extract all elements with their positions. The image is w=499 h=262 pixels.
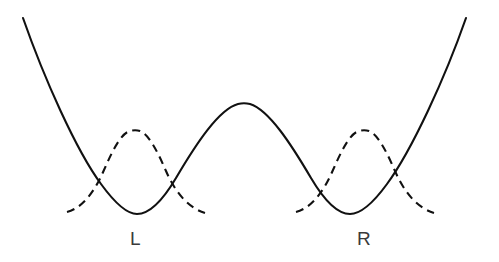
double-well-plot-canvas (0, 0, 499, 262)
potential-energy-curve (23, 18, 466, 214)
double-well-figure: L R (0, 0, 499, 262)
left-well-label: L (130, 229, 141, 248)
left-wavefunction-curve (67, 130, 205, 213)
right-well-label: R (357, 229, 371, 248)
